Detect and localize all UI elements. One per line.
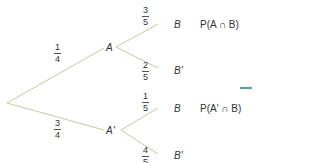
prob-B-prime-given-A: 2 5 (142, 61, 149, 82)
node-B-prime-lower: B' (174, 151, 183, 161)
node-A-prime: A' (106, 126, 115, 136)
branch-A-prime-B (121, 108, 158, 130)
numerator: 4 (143, 146, 148, 155)
node-A: A (106, 43, 113, 53)
denominator: 5 (143, 158, 148, 163)
branch-A-prime-B-prime (121, 130, 158, 154)
denominator: 5 (143, 104, 148, 113)
branch-A-B (116, 24, 158, 47)
prob-A-numerator: 1 (55, 43, 60, 52)
prob-A: 1 4 (54, 43, 61, 64)
numerator: 1 (143, 92, 148, 101)
prob-A-denominator: 4 (55, 55, 60, 64)
node-B-lower: B (174, 104, 181, 114)
branch-A-B-prime (116, 47, 158, 68)
numerator: 3 (143, 6, 148, 15)
accent-line (240, 87, 252, 89)
prob-B-given-A: 3 5 (142, 6, 149, 27)
prob-B-given-A-prime: 1 5 (142, 92, 149, 113)
node-B-prime-upper: B' (174, 66, 183, 76)
outcome-A-and-B: P(A ∩ B) (200, 20, 239, 30)
denominator: 5 (143, 18, 148, 27)
prob-A-prime-denominator: 4 (55, 131, 60, 140)
node-B-upper: B (174, 20, 181, 30)
prob-B-prime-given-A-prime: 4 5 (142, 146, 149, 163)
numerator: 2 (143, 61, 148, 70)
denominator: 5 (143, 73, 148, 82)
prob-A-prime-numerator: 3 (55, 119, 60, 128)
prob-A-prime: 3 4 (54, 119, 61, 140)
outcome-A-prime-and-B: P(A' ∩ B) (200, 104, 241, 114)
